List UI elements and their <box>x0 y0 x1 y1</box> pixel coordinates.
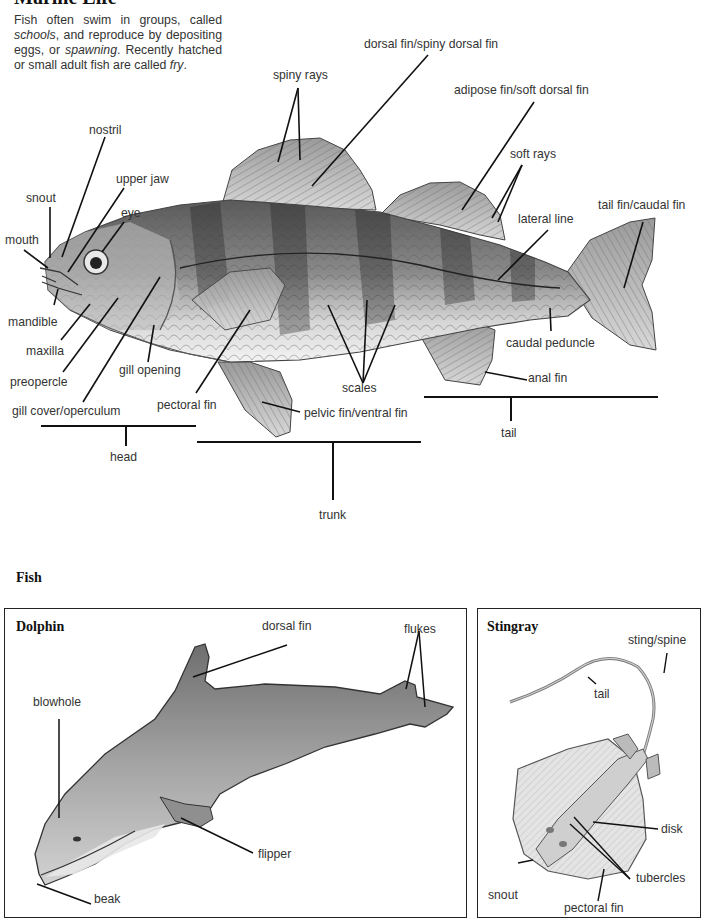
dolphin-label-flipper: flipper <box>258 847 291 861</box>
label-preopercle: preopercle <box>10 375 68 389</box>
fish-illustration <box>0 0 704 540</box>
stingray-label-tubercles: tubercles <box>636 871 685 885</box>
pelvic-fin-shape <box>218 362 292 437</box>
stingray-panel: Stingray sting/spine ta <box>477 608 701 918</box>
label-mouth: mouth <box>5 233 39 247</box>
label-gill-cover: gill cover/operculum <box>12 404 120 418</box>
dolphin-panel: Dolphin dorsal fin flukes blow <box>4 608 467 918</box>
label-gill-opening: gill opening <box>119 363 181 377</box>
label-mandible: mandible <box>8 315 57 329</box>
label-pelvic-fin: pelvic fin/ventral fin <box>304 406 408 420</box>
region-label-tail: tail <box>501 426 517 440</box>
label-tail-fin: tail fin/caudal fin <box>598 198 685 212</box>
label-lateral-line: lateral line <box>518 212 574 226</box>
label-scales: scales <box>342 381 377 395</box>
stingray-label-tail: tail <box>594 687 610 701</box>
region-label-trunk: trunk <box>319 508 346 522</box>
label-eye: eye <box>121 206 141 220</box>
stingray-label-sting-spine: sting/spine <box>628 633 686 647</box>
dolphin-label-dorsal-fin: dorsal fin <box>262 619 311 633</box>
stingray-label-snout: snout <box>488 888 518 902</box>
dolphin-illustration <box>5 609 466 917</box>
section-title: Fish <box>16 570 42 586</box>
region-label-head: head <box>110 450 137 464</box>
label-anal-fin: anal fin <box>528 371 567 385</box>
label-nostril: nostril <box>89 123 122 137</box>
label-caudal-peduncle: caudal peduncle <box>506 336 595 350</box>
label-upper-jaw: upper jaw <box>116 172 169 186</box>
label-soft-rays: soft rays <box>510 147 556 161</box>
label-pectoral-fin: pectoral fin <box>157 398 217 412</box>
dolphin-label-beak: beak <box>94 892 120 906</box>
label-adipose-fin: adipose fin/soft dorsal fin <box>454 83 589 97</box>
stingray-label-pectoral-fin: pectoral fin <box>564 901 624 915</box>
tail-fin-shape <box>565 218 656 350</box>
label-spiny-rays: spiny rays <box>273 68 328 82</box>
label-maxilla: maxilla <box>26 344 64 358</box>
label-dorsal-fin: dorsal fin/spiny dorsal fin <box>364 37 498 51</box>
label-snout: snout <box>26 191 56 205</box>
stingray-label-disk: disk <box>661 822 683 836</box>
dolphin-label-blowhole: blowhole <box>33 695 81 709</box>
dolphin-label-flukes: flukes <box>404 622 436 636</box>
